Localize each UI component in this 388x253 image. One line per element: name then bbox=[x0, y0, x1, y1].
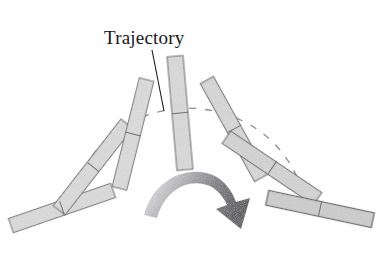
rotation-arrow bbox=[144, 172, 250, 229]
leader-line bbox=[152, 50, 164, 111]
bar-group bbox=[9, 56, 375, 233]
trajectory-figure: Trajectory bbox=[0, 0, 388, 253]
figure-canvas: Trajectory bbox=[0, 0, 388, 253]
trajectory-label: Trajectory bbox=[104, 27, 185, 48]
